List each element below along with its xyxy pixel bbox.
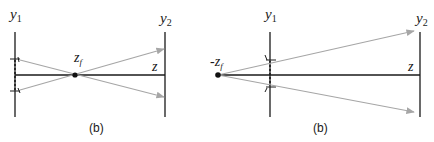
- left-panel: y1 y2 zf z (b): [8, 6, 172, 135]
- right-focal-label: -zf: [210, 54, 224, 71]
- left-focal-point: [72, 72, 77, 77]
- right-caption: (b): [313, 121, 328, 135]
- right-ray-upper: [218, 31, 414, 75]
- right-focal-point: [215, 72, 221, 78]
- left-caption: (b): [89, 121, 104, 135]
- right-z-label: z: [407, 59, 414, 74]
- right-y2-label: y2: [414, 10, 428, 28]
- left-y1-label: y1: [8, 6, 22, 24]
- left-ray-upper: [20, 60, 164, 97]
- left-ray-lower: [20, 49, 164, 90]
- left-y2-label: y2: [158, 10, 172, 28]
- left-focal-label: zf: [73, 50, 83, 67]
- right-ray-lower: [218, 75, 414, 112]
- diagram-canvas: y1 y2 zf z (b) y1 y2 -zf z (b): [0, 0, 434, 142]
- right-panel: y1 y2 -zf z (b): [210, 6, 428, 135]
- right-y1-label: y1: [263, 6, 277, 24]
- left-z-label: z: [151, 59, 158, 74]
